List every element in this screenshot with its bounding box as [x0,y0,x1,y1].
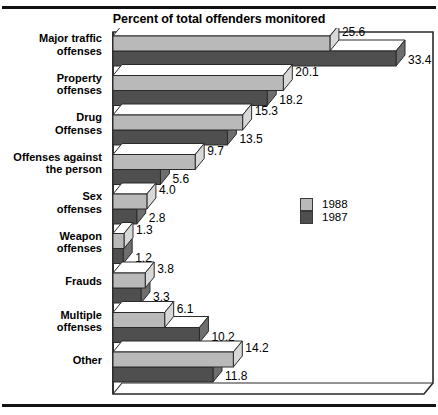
value-label-1988-6: 3.8 [157,263,174,275]
bar-1988-4 [113,183,156,209]
category-label-line: Major traffic [0,32,102,45]
category-label-line: Offenses against [0,151,102,164]
category-label-line: Weapon [0,230,102,243]
legend-swatch-1987 [300,211,313,224]
category-label-line: offenses [0,203,102,216]
category-label-0: Major trafficoffenses [0,32,102,57]
category-label-line: Sex [0,190,102,203]
value-label-1987-1: 18.2 [279,94,302,106]
legend-label-1987: 1987 [322,211,348,224]
page-title: Percent of total offenders monitored [0,12,438,26]
value-label-1988-4: 4.0 [159,184,176,196]
bar-1988-8 [113,341,242,367]
value-label-1988-7: 6.1 [177,303,194,315]
category-label-line: Drug [0,111,102,124]
category-label-7: Multipleoffenses [0,309,102,334]
bars-layer: 25.633.4Major trafficoffenses20.118.2Pro… [0,28,438,403]
legend-label-1988: 1988 [322,198,348,211]
value-label-1988-5: 1.3 [136,224,153,236]
category-label-line: offenses [0,321,102,334]
bar-1988-3 [113,144,204,170]
category-label-line: offenses [0,242,102,255]
category-label-4: Sexoffenses [0,190,102,215]
bar-1988-0 [113,28,339,51]
chart-legend: 1988 1987 [300,198,348,224]
category-label-line: Offenses [0,124,102,137]
category-label-line: offenses [0,84,102,97]
legend-swatch-1988 [300,198,313,211]
value-label-1987-7: 10.2 [211,331,234,343]
category-label-line: Other [0,354,102,367]
category-label-line: Property [0,72,102,85]
bar-chart: 25.633.4Major trafficoffenses20.118.2Pro… [0,28,438,403]
category-label-5: Weaponoffenses [0,230,102,255]
category-label-line: the person [0,163,102,176]
category-label-line: offenses [0,45,102,58]
category-label-6: Frauds [0,275,102,288]
value-label-1987-8: 11.8 [225,370,247,382]
bar-1988-6 [113,262,154,288]
legend-item-1987: 1987 [300,211,348,224]
value-label-1988-3: 9.7 [207,145,224,157]
top-divider-rule [2,6,436,9]
value-label-1987-6: 3.3 [153,291,170,303]
category-label-8: Other [0,354,102,367]
value-label-1987-0: 33.4 [408,54,431,66]
bar-1988-1 [113,65,292,91]
category-label-line: Multiple [0,309,102,322]
category-label-2: DrugOffenses [0,111,102,136]
value-label-1988-0: 25.6 [342,26,365,38]
value-label-1988-2: 15.3 [255,105,278,117]
value-label-1988-1: 20.1 [295,66,318,78]
category-label-line: Frauds [0,275,102,288]
bar-1988-2 [113,104,252,130]
value-label-1987-5: 1.2 [135,252,152,264]
legend-item-1988: 1988 [300,198,348,211]
value-label-1987-2: 13.5 [239,133,262,145]
bottom-divider-rule [2,404,436,407]
category-label-3: Offenses againstthe person [0,151,102,176]
value-label-1988-8: 14.2 [245,342,268,354]
bar-1988-7 [113,302,174,328]
category-label-1: Propertyoffenses [0,72,102,97]
